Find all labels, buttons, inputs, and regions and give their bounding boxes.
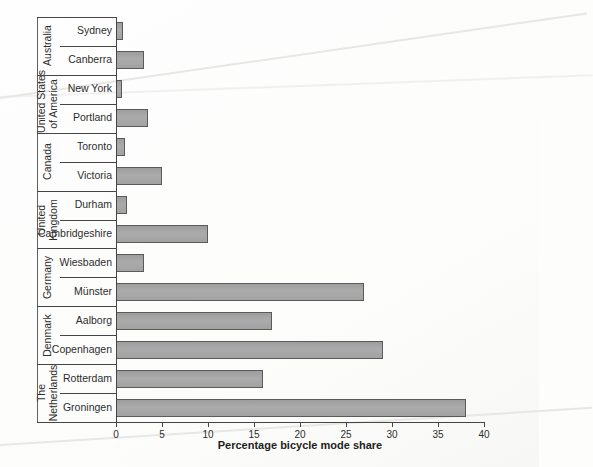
x-tick — [254, 422, 255, 427]
bar-aalborg — [116, 312, 272, 330]
x-tick — [392, 422, 393, 427]
x-tick — [484, 422, 485, 427]
city-label: Canberra — [12, 53, 112, 65]
city-separator — [60, 335, 116, 336]
city-label: Sydney — [12, 24, 112, 36]
x-tick-label: 35 — [426, 429, 450, 440]
city-label: Münster — [12, 285, 112, 297]
x-tick-label: 5 — [150, 429, 174, 440]
bar-cambridgeshire — [116, 225, 208, 243]
x-tick-label: 10 — [196, 429, 220, 440]
x-tick-label: 30 — [380, 429, 404, 440]
x-tick-label: 0 — [104, 429, 128, 440]
label-panel-left-border — [37, 17, 38, 422]
bar-durham — [116, 196, 127, 214]
x-tick — [346, 422, 347, 427]
city-separator — [60, 162, 116, 163]
city-label: Wiesbaden — [12, 256, 112, 268]
x-tick — [438, 422, 439, 427]
bar-canberra — [116, 51, 144, 69]
x-tick — [162, 422, 163, 427]
city-separator — [60, 104, 116, 105]
bar-copenhagen — [116, 341, 383, 359]
city-label: Groningen — [12, 401, 112, 413]
city-label: Victoria — [12, 169, 112, 181]
x-tick-label: 40 — [472, 429, 496, 440]
city-label: Rotterdam — [12, 372, 112, 384]
bar-victoria — [116, 167, 162, 185]
city-label: Durham — [12, 198, 112, 210]
x-tick — [300, 422, 301, 427]
city-label: Toronto — [12, 140, 112, 152]
city-separator — [60, 277, 116, 278]
x-axis-title: Percentage bicycle mode share — [116, 439, 484, 451]
bar-sydney — [116, 22, 123, 40]
bar-wiesbaden — [116, 254, 144, 272]
x-tick-label: 20 — [288, 429, 312, 440]
bar-toronto — [116, 138, 125, 156]
x-axis-line — [37, 422, 484, 423]
x-tick — [208, 422, 209, 427]
bar-mnster — [116, 283, 364, 301]
x-tick-label: 25 — [334, 429, 358, 440]
city-label: Aalborg — [12, 314, 112, 326]
bar-rotterdam — [116, 370, 263, 388]
y-axis-line — [116, 17, 117, 422]
city-separator — [60, 393, 116, 394]
x-tick-label: 15 — [242, 429, 266, 440]
bar-portland — [116, 109, 148, 127]
city-label: Cambridgeshire — [12, 227, 112, 239]
city-separator — [60, 46, 116, 47]
city-separator — [60, 220, 116, 221]
bar-groningen — [116, 399, 466, 417]
city-label: New York — [12, 82, 112, 94]
x-tick — [116, 422, 117, 427]
city-label: Copenhagen — [12, 343, 112, 355]
city-label: Portland — [12, 111, 112, 123]
